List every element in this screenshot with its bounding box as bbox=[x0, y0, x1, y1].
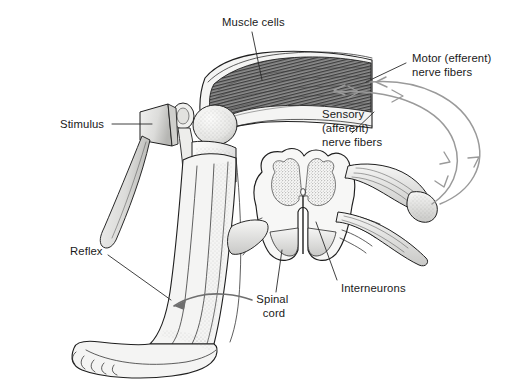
label-sensory-line3: nerve fibers bbox=[322, 136, 382, 148]
label-spinal-cord: Spinal cord bbox=[256, 293, 291, 319]
diagram-canvas: Muscle cells Stimulus Motor (efferent) n… bbox=[0, 0, 518, 392]
patella-inner bbox=[177, 108, 189, 124]
sensory-arrowhead-3 bbox=[440, 152, 450, 164]
label-reflex-line1: Reflex bbox=[70, 245, 103, 257]
label-sensory-nerve-fibers: Sensory (afferent) nerve fibers bbox=[322, 108, 382, 148]
reflex-arc-figure: Muscle cells Stimulus Motor (efferent) n… bbox=[0, 0, 518, 392]
label-spinal-cord-line1: Spinal bbox=[256, 293, 288, 305]
ventral-root-nerve bbox=[336, 212, 428, 266]
label-interneurons: Interneurons bbox=[341, 282, 406, 294]
label-motor-line2: nerve fibers bbox=[412, 66, 472, 78]
label-motor-line1: Motor (efferent) bbox=[412, 52, 491, 64]
label-sensory-line1: Sensory bbox=[322, 108, 364, 120]
label-spinal-cord-line2: cord bbox=[263, 307, 285, 319]
label-interneurons-line1: Interneurons bbox=[341, 282, 406, 294]
label-reflex: Reflex bbox=[70, 245, 103, 257]
nerve-rootlets-left bbox=[228, 218, 269, 255]
label-muscle-cells: Muscle cells bbox=[222, 16, 285, 28]
leader-reflex bbox=[108, 255, 171, 300]
label-muscle-cells-line1: Muscle cells bbox=[222, 16, 285, 28]
label-stimulus-line1: Stimulus bbox=[60, 118, 104, 130]
spinal-cord-outline bbox=[254, 149, 355, 261]
sensory-arrowhead-4 bbox=[435, 176, 448, 187]
condyle-stipple bbox=[197, 109, 233, 141]
left-root-trunk bbox=[228, 220, 269, 254]
label-stimulus: Stimulus bbox=[60, 118, 104, 130]
central-canal-opening bbox=[301, 189, 306, 196]
reflex-hammer bbox=[100, 104, 178, 248]
spinal-cord-illustration bbox=[228, 149, 438, 266]
label-sensory-line2: (afferent) bbox=[322, 122, 369, 134]
motor-chevron-mid bbox=[468, 157, 479, 167]
label-motor-nerve-fibers: Motor (efferent) nerve fibers bbox=[412, 52, 495, 78]
